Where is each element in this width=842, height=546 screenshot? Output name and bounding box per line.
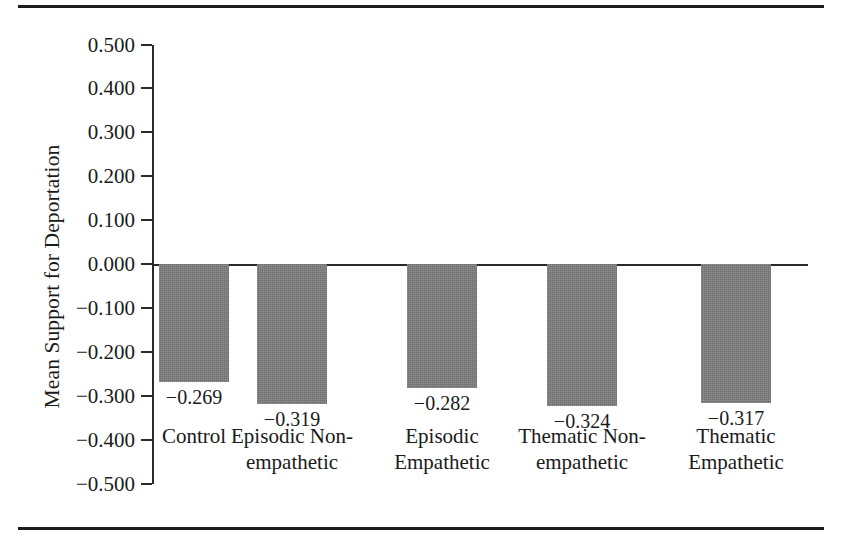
category-label: Thematic Empathetic	[688, 423, 784, 475]
y-axis-tick-mark	[141, 219, 152, 221]
top-divider-rule	[18, 5, 824, 8]
y-axis-tick-mark	[141, 439, 152, 441]
category-label: Thematic Non- empathetic	[518, 423, 646, 475]
y-axis-tick-label: 0.400	[88, 76, 135, 101]
y-axis-tick-label: 0.000	[88, 252, 135, 277]
y-axis-tick-label: −0.300	[76, 383, 135, 408]
bar-value-label: −0.282	[414, 392, 470, 415]
y-axis-tick-label: −0.200	[76, 339, 135, 364]
y-axis-tick-label: 0.100	[88, 208, 135, 233]
y-axis-tick-mark	[141, 395, 152, 397]
y-axis-tick-label: −0.100	[76, 295, 135, 320]
y-axis-tick-mark	[141, 44, 152, 46]
bottom-divider-rule	[18, 527, 824, 530]
bar-value-label: −0.269	[166, 386, 222, 409]
y-axis-tick-label: 0.200	[88, 164, 135, 189]
category-label: Episodic Non- empathetic	[231, 423, 353, 475]
y-axis-tick-mark	[141, 351, 152, 353]
y-axis-tick-mark	[141, 131, 152, 133]
plot-area: 0.5000.4000.3000.2000.1000.000−0.100−0.2…	[152, 45, 808, 484]
bar	[257, 264, 327, 404]
y-axis-tick-mark	[141, 263, 152, 265]
y-axis-tick-mark	[141, 483, 152, 485]
y-axis-title: Mean Support for Deportation	[40, 47, 65, 507]
y-axis-tick-mark	[141, 175, 152, 177]
y-axis-tick-label: 0.500	[88, 32, 135, 57]
bar	[159, 264, 229, 382]
y-axis-tick-label: 0.300	[88, 120, 135, 145]
y-axis-tick-mark	[141, 87, 152, 89]
category-label: Episodic Empathetic	[394, 423, 490, 475]
y-axis-tick-label: −0.400	[76, 427, 135, 452]
category-label: Control	[162, 423, 226, 449]
y-axis-tick-label: −0.500	[76, 471, 135, 496]
bar	[407, 264, 477, 388]
bar	[701, 264, 771, 403]
bar	[547, 264, 617, 406]
y-axis-tick-mark	[141, 307, 152, 309]
